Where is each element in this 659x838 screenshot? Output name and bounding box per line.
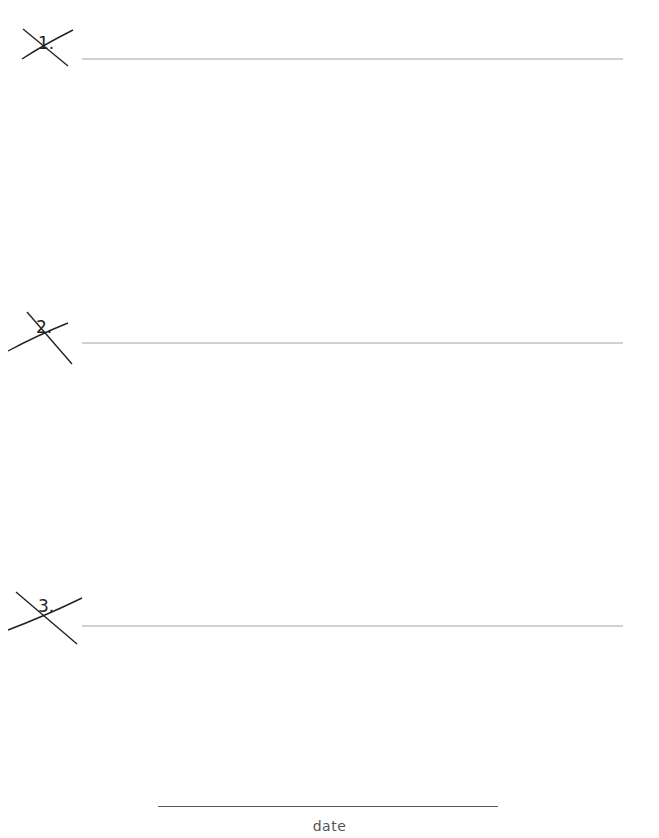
cross-out-mark-icon <box>0 303 80 373</box>
cross-out-mark-icon <box>0 20 80 80</box>
date-label: date <box>0 818 659 834</box>
answer-line-2[interactable] <box>82 342 623 344</box>
cross-out-mark-icon <box>0 583 85 653</box>
list-item-3: 3. <box>0 583 659 663</box>
answer-line-3[interactable] <box>82 625 623 627</box>
date-signature-line[interactable] <box>158 806 498 807</box>
list-item-2: 2. <box>0 303 659 383</box>
list-item-1: 1. <box>0 20 659 100</box>
answer-line-1[interactable] <box>82 58 623 60</box>
